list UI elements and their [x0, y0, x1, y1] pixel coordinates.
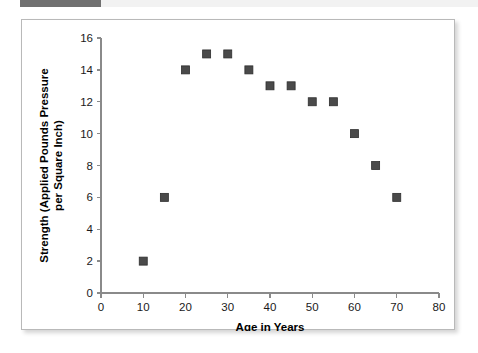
y-axis-title: Strength (Applied Pounds Pressure per Sq… — [38, 68, 64, 262]
decorative-accent-bar — [20, 0, 101, 7]
chart-svg: 0246810121416 01020304050607080 Age in Y… — [22, 20, 456, 331]
data-point-marker — [224, 50, 232, 58]
x-tick-label: 70 — [390, 301, 403, 313]
figure-card: 0246810121416 01020304050607080 Age in Y… — [21, 19, 455, 330]
y-tick-label: 6 — [87, 191, 93, 203]
y-axis-ticks: 0246810121416 — [80, 32, 101, 299]
data-point-marker — [245, 66, 253, 74]
x-tick-label: 80 — [433, 301, 446, 313]
data-markers — [139, 50, 401, 265]
y-tick-label: 8 — [87, 160, 93, 172]
x-axis-ticks: 01020304050607080 — [98, 293, 446, 313]
x-tick-label: 40 — [264, 301, 277, 313]
y-tick-label: 10 — [80, 128, 93, 140]
data-point-marker — [182, 66, 190, 74]
y-axis-title-line2: per Square Inch) — [52, 120, 64, 211]
y-axis-title-line1: Strength (Applied Pounds Pressure — [38, 68, 50, 262]
x-tick-label: 60 — [348, 301, 361, 313]
data-point-marker — [372, 162, 380, 170]
data-point-marker — [266, 82, 274, 90]
y-tick-label: 2 — [87, 255, 93, 267]
scatter-plot: 0246810121416 01020304050607080 Age in Y… — [22, 20, 456, 331]
x-tick-label: 0 — [98, 301, 104, 313]
data-point-marker — [393, 193, 401, 201]
data-point-marker — [329, 98, 337, 106]
data-point-marker — [287, 82, 295, 90]
x-tick-label: 20 — [179, 301, 192, 313]
x-tick-label: 30 — [221, 301, 234, 313]
y-tick-label: 16 — [80, 32, 93, 44]
data-point-marker — [308, 98, 316, 106]
x-axis-title: Age in Years — [236, 321, 305, 331]
data-point-marker — [139, 257, 147, 265]
data-point-marker — [160, 193, 168, 201]
y-tick-label: 0 — [87, 287, 93, 299]
x-tick-label: 50 — [306, 301, 319, 313]
y-tick-label: 14 — [80, 64, 93, 76]
y-tick-label: 12 — [80, 96, 93, 108]
data-point-marker — [203, 50, 211, 58]
y-tick-label: 4 — [87, 223, 94, 235]
decorative-accent-strip — [101, 0, 478, 7]
x-tick-label: 10 — [137, 301, 150, 313]
data-point-marker — [351, 130, 359, 138]
